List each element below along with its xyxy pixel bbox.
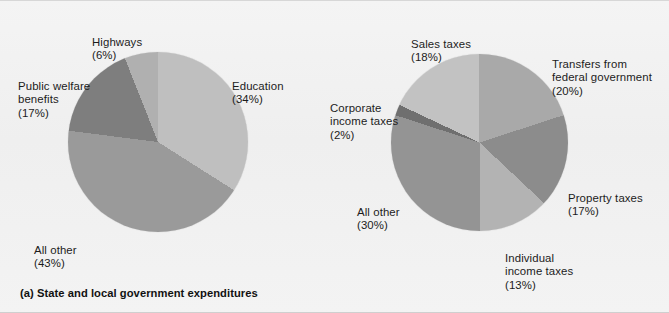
pie-b-label-all-other: All other (30%) [357,192,400,246]
pie-b-label-individual-income-pct: (13%) [505,279,573,293]
panel-a-expenditures: Highways (6%) Public welfare benefits (1… [0,0,335,313]
pie-a-label-public-welfare-pct: (17%) [18,107,90,121]
pie-b-label-transfers-name: Transfers from federal government [552,58,652,84]
pie-chart-b [391,54,568,231]
pie-a-label-highways: Highways (6%) [92,22,142,76]
pie-a-label-highways-pct: (6%) [92,49,142,63]
pie-b-label-corporate-income-name: Corporate income taxes [330,102,398,128]
pie-a-label-all-other: All other (43%) [34,230,77,284]
pie-b-slices [391,54,568,231]
pie-b-label-property-taxes-name: Property taxes [568,192,643,204]
pie-a-label-education: Education (34%) [232,66,284,120]
pie-a-slices [68,52,248,232]
pie-a-label-all-other-name: All other [34,244,77,256]
pie-b-label-property-taxes: Property taxes (17%) [568,178,643,232]
pie-b-label-corporate-income-pct: (2%) [330,129,398,143]
panel-b-revenue: Sales taxes (18%) Transfers from federal… [335,0,669,313]
pie-b-label-sales-taxes-name: Sales taxes [411,38,471,50]
pie-b-label-transfers-pct: (20%) [552,85,652,99]
pie-b-label-individual-income-name: Individual income taxes [505,252,573,278]
figure-two-pie-charts: Highways (6%) Public welfare benefits (1… [0,0,669,313]
pie-a-label-public-welfare-name: Public welfare benefits [18,80,90,106]
pie-chart-a [68,52,248,232]
pie-a-label-education-name: Education [232,80,284,92]
pie-b-label-individual-income: Individual income taxes (13%) [505,238,573,306]
pie-a-label-public-welfare: Public welfare benefits (17%) [18,66,90,134]
pie-a-label-highways-name: Highways [92,36,142,48]
pie-a-label-all-other-pct: (43%) [34,257,77,271]
pie-b-label-property-taxes-pct: (17%) [568,205,643,219]
pie-b-label-sales-taxes-pct: (18%) [411,51,471,65]
pie-b-label-transfers: Transfers from federal government (20%) [552,44,652,112]
caption-panel-a: (a) State and local government expenditu… [20,287,258,299]
pie-b-label-sales-taxes: Sales taxes (18%) [411,24,471,78]
pie-b-label-all-other-name: All other [357,206,400,218]
pie-b-label-corporate-income: Corporate income taxes (2%) [330,88,398,156]
pie-b-label-all-other-pct: (30%) [357,219,400,233]
pie-a-label-education-pct: (34%) [232,93,284,107]
